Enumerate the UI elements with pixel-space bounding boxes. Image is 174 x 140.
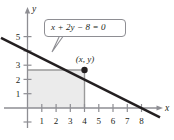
x-axis-arrowhead — [157, 105, 164, 110]
y-tick-label-5: 5 — [16, 32, 21, 42]
x-tick-label-3: 3 — [68, 116, 73, 126]
x-tick-label-8: 8 — [139, 116, 144, 126]
x-tick-label-2: 2 — [54, 116, 59, 126]
y-tick-label-2: 2 — [16, 75, 21, 85]
callout-tail — [52, 35, 64, 52]
equation-callout: x + 2y − 8 = 0 — [44, 19, 126, 37]
y-axis-label: y — [31, 4, 37, 14]
y-axis-arrowhead — [25, 7, 30, 14]
x-tick-label-6: 6 — [111, 116, 116, 126]
point-label: (x, y) — [76, 54, 94, 64]
graph-figure: 1 2 3 4 5 6 7 8 1 2 3 5 x y (x, y) x + 2… — [0, 0, 174, 140]
marked-point — [81, 67, 87, 73]
x-tick-label-7: 7 — [125, 116, 130, 126]
y-tick-label-1: 1 — [16, 89, 21, 99]
x-tick-label-5: 5 — [97, 116, 102, 126]
y-tick-label-3: 3 — [16, 60, 21, 70]
x-axis-label: x — [164, 103, 170, 113]
x-tick-label-4: 4 — [82, 116, 87, 126]
x-tick-label-1: 1 — [40, 116, 45, 126]
equation-callout-text: x + 2y − 8 = 0 — [51, 22, 106, 32]
